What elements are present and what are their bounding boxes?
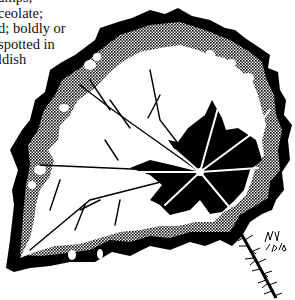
leaf-vein-center (196, 168, 204, 176)
artist-signature (265, 231, 286, 252)
illustration-page: amps; ceolate; d; boldly or spotted in l… (0, 0, 295, 300)
petiole (234, 228, 282, 298)
begonia-leaf-illustration (0, 0, 295, 300)
